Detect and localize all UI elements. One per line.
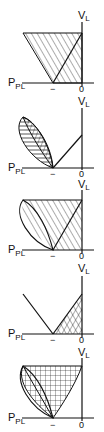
y-axis-label: VL — [78, 9, 90, 23]
tick-zero: 0 — [79, 251, 84, 261]
x-axis-label: PPL — [8, 327, 26, 342]
y-axis-label: VL — [78, 95, 90, 109]
tick-neg: − — [50, 251, 55, 261]
x-axis-label: PPL — [8, 243, 26, 258]
y-axis-label: VL — [78, 346, 90, 360]
left-line — [23, 294, 53, 334]
tick-zero: 0 — [79, 420, 84, 430]
tick-neg: − — [50, 169, 55, 179]
panel-4: VL PPL − 0 — [8, 262, 94, 345]
panel-3: VL PPL − 0 — [8, 178, 94, 261]
tick-neg: − — [50, 84, 55, 94]
hatched-region — [22, 200, 82, 250]
y-axis-label: VL — [78, 262, 90, 276]
panel-5: VL PPL − 0 — [8, 346, 94, 430]
tick-zero: 0 — [79, 335, 84, 345]
panel-1: VL PPL − 0 — [8, 9, 94, 94]
tick-zero: 0 — [79, 84, 84, 94]
tick-neg: − — [50, 420, 55, 430]
hatched-trapezoid — [23, 33, 82, 83]
panel-2: VL PPL − 0 — [8, 95, 94, 179]
diagram-stack: VL PPL − 0 VL PPL − 0 VL PPL − 0 VL — [0, 0, 104, 432]
x-axis-label: PPL — [8, 411, 26, 426]
y-axis-label: VL — [78, 178, 90, 192]
x-axis-label: PPL — [8, 161, 26, 176]
tick-neg: − — [50, 335, 55, 345]
grid-region — [21, 366, 82, 418]
x-axis-label: PPL — [8, 76, 26, 91]
diagonal-line — [53, 135, 82, 168]
